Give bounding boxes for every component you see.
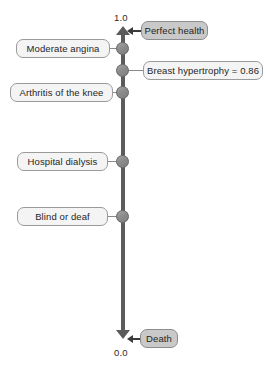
node-marker-breast-hypertrophy[interactable] xyxy=(116,64,129,77)
diagram-canvas: 1.0 0.0 Perfect health Moderate angina B… xyxy=(0,0,268,366)
axis-tick-label-top: 1.0 xyxy=(114,12,128,23)
axis-tick-label-bottom: 0.0 xyxy=(114,347,128,358)
utility-axis-line xyxy=(121,34,125,332)
label-breast-hypertrophy[interactable]: Breast hypertrophy = 0.86 xyxy=(143,61,263,80)
label-perfect-health[interactable]: Perfect health xyxy=(141,21,208,40)
node-marker-arthritis-of-the-knee[interactable] xyxy=(116,86,129,99)
label-death[interactable]: Death xyxy=(140,329,178,348)
label-arthritis-of-the-knee[interactable]: Arthritis of the knee xyxy=(10,83,113,102)
node-marker-hospital-dialysis[interactable] xyxy=(116,155,129,168)
label-hospital-dialysis[interactable]: Hospital dialysis xyxy=(17,152,108,171)
node-marker-moderate-angina[interactable] xyxy=(116,42,129,55)
label-blind-or-deaf[interactable]: Blind or deaf xyxy=(17,207,108,226)
node-marker-blind-or-deaf[interactable] xyxy=(116,210,129,223)
label-moderate-angina[interactable]: Moderate angina xyxy=(16,39,110,58)
